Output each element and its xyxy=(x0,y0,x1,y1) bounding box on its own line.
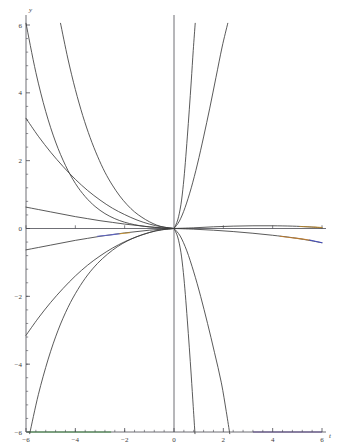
y-tick-label: 2 xyxy=(19,157,23,165)
x-tick-label: 4 xyxy=(271,436,275,444)
x-tick-label: 2 xyxy=(222,436,226,444)
y-tick-label: −2 xyxy=(15,293,23,301)
mathematica-plot-svg: −6−4−20246−6−4−20246 t y xyxy=(0,0,338,448)
y-tick-label: 6 xyxy=(19,22,23,30)
x-tick-label: −6 xyxy=(22,436,30,444)
x-tick-label: −2 xyxy=(121,436,129,444)
x-tick-label: −4 xyxy=(72,436,80,444)
y-tick-label: −6 xyxy=(15,429,23,437)
x-tick-label: 0 xyxy=(172,436,176,444)
plot-background xyxy=(0,0,338,448)
y-tick-label: 0 xyxy=(19,225,23,233)
plot-canvas: −6−4−20246−6−4−20246 t y xyxy=(0,0,338,448)
y-tick-label: 4 xyxy=(19,89,23,97)
x-tick-label: 6 xyxy=(320,436,324,444)
y-tick-label: −4 xyxy=(15,361,23,369)
